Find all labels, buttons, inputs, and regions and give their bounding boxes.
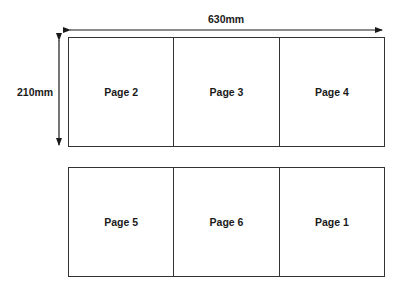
page-cell: Page 3 — [174, 38, 279, 146]
page-cell: Page 6 — [174, 168, 279, 276]
width-label: 630mm — [208, 13, 244, 25]
bottom-panel: Page 5 Page 6 Page 1 — [68, 167, 385, 277]
page-cell: Page 5 — [69, 168, 174, 276]
page-cell: Page 1 — [280, 168, 384, 276]
page-cell: Page 2 — [69, 38, 174, 146]
page-cell: Page 4 — [280, 38, 384, 146]
top-panel: Page 2 Page 3 Page 4 — [68, 37, 385, 147]
height-label: 210mm — [17, 86, 53, 98]
